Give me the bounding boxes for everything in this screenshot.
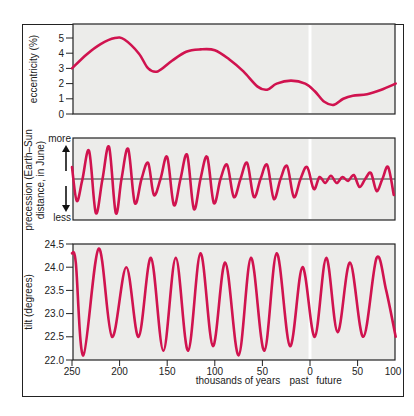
y-tick-label: 22.5 <box>45 331 65 342</box>
eccentricity-y-axis: 012345 <box>58 33 73 120</box>
y-tick-label: 23.0 <box>45 308 65 319</box>
x-tick-label: 200 <box>111 366 128 377</box>
eccentricity-axis-label: eccentricity (%) <box>28 35 39 103</box>
tilt-axis-label: tilt (degrees) <box>23 274 34 330</box>
future-label: future <box>316 375 342 386</box>
tilt-y-axis: 22.022.523.023.524.024.5 <box>45 239 73 366</box>
past-label: past <box>290 375 309 386</box>
y-tick-label: 1 <box>58 93 64 104</box>
y-tick-label: 3 <box>58 63 64 74</box>
x-tick-label: 50 <box>352 366 364 377</box>
y-tick-label: 22.0 <box>45 355 65 366</box>
tilt-plot-area <box>73 244 395 360</box>
y-tick-label: 0 <box>58 109 64 120</box>
milankovitch-chart: 012345 22.022.523.023.524.024.5 25020015… <box>0 0 414 416</box>
y-tick-label: 24.5 <box>45 239 65 250</box>
down-arrow-icon <box>62 186 70 212</box>
y-tick-label: 5 <box>58 33 64 44</box>
y-tick-label: 23.5 <box>45 285 65 296</box>
less-label: less <box>53 212 71 223</box>
precession-axis-label-2: distance, in June) <box>35 141 46 219</box>
more-label: more <box>48 133 71 144</box>
y-tick-label: 4 <box>58 48 64 59</box>
precession-axis-label: precession (Earth–Sun <box>23 129 34 231</box>
up-arrow-icon <box>62 145 70 171</box>
x-axis-label: thousands of years <box>196 375 281 386</box>
x-tick-label: 100 <box>385 366 402 377</box>
y-tick-label: 2 <box>58 78 64 89</box>
x-tick-label: 250 <box>64 366 81 377</box>
x-tick-label: 150 <box>159 366 176 377</box>
y-tick-label: 24.0 <box>45 262 65 273</box>
